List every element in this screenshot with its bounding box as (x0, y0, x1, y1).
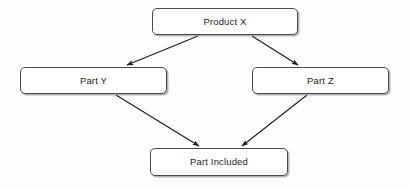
edge-part-y-to-part-included (116, 95, 199, 146)
node-part-z[interactable]: Part Z (252, 67, 389, 94)
node-part-y-label: Part Y (80, 76, 107, 86)
node-part-included-label: Part Included (190, 157, 248, 167)
edge-part-z-to-part-included (242, 95, 307, 146)
node-product-x[interactable]: Product X (152, 8, 298, 35)
node-part-z-label: Part Z (307, 76, 334, 86)
diagram-canvas: Product X Part Y Part Z Part Included (0, 0, 412, 189)
edge-product-x-to-part-y (127, 36, 198, 65)
node-product-x-label: Product X (203, 17, 246, 27)
edge-product-x-to-part-z (252, 36, 298, 65)
node-part-included[interactable]: Part Included (150, 148, 288, 176)
node-part-y[interactable]: Part Y (20, 67, 167, 94)
